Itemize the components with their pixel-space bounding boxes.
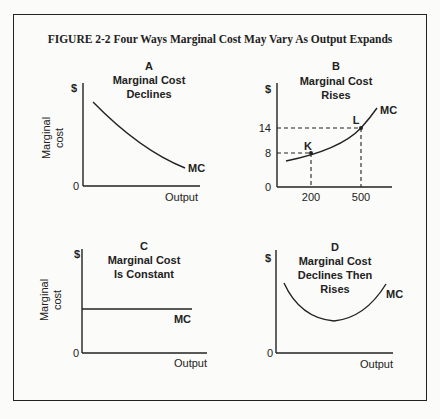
figure-canvas: A Marginal Cost Declines $ 0 Output MC M… bbox=[0, 0, 440, 419]
panel-d-mc-label: MC bbox=[386, 288, 403, 300]
panel-a-origin: 0 bbox=[73, 180, 79, 192]
panel-a-x-label: Output bbox=[165, 191, 198, 203]
panel-c-origin: 0 bbox=[73, 347, 79, 359]
panel-d-letter: D bbox=[331, 241, 339, 253]
panel-a-title-1: Marginal Cost bbox=[113, 74, 186, 86]
panel-c-letter: C bbox=[140, 240, 148, 252]
panel-c-mc-label: MC bbox=[174, 313, 191, 325]
panel-a-dollar: $ bbox=[71, 82, 77, 94]
panel-b-point-l: L bbox=[353, 114, 360, 126]
panel-a-title-2: Declines bbox=[126, 88, 171, 100]
panel-d-title-1: Marginal Cost bbox=[299, 255, 372, 267]
panel-d-origin: 0 bbox=[267, 347, 273, 359]
panel-c-x-label: Output bbox=[174, 357, 207, 369]
panel-c-y-label-2: cost bbox=[51, 290, 63, 310]
panel-b-dollar: $ bbox=[265, 83, 271, 95]
point-l-marker bbox=[359, 126, 363, 130]
panel-c-title-1: Marginal Cost bbox=[108, 254, 181, 266]
panel-c-y-label-1: Marginal bbox=[38, 279, 50, 321]
panel-b-tick-200: 200 bbox=[302, 191, 320, 203]
panel-b-mc-label: MC bbox=[380, 104, 397, 116]
panel-d-dollar: $ bbox=[265, 252, 271, 264]
panel-c-title-2: Is Constant bbox=[114, 268, 174, 280]
panel-b-guides bbox=[277, 128, 361, 187]
panel-d-title-2: Declines Then bbox=[298, 269, 373, 281]
panel-b-title-2: Rises bbox=[321, 89, 350, 101]
panel-a-y-label-2: cost bbox=[53, 128, 65, 148]
panel-a-mc-curve bbox=[93, 102, 185, 168]
panel-a-mc-label: MC bbox=[188, 162, 205, 174]
panel-c-dollar: $ bbox=[74, 248, 80, 260]
panel-b-tick-8: 8 bbox=[265, 147, 271, 159]
panel-b-tick-500: 500 bbox=[352, 191, 370, 203]
panel-b-point-k: K bbox=[304, 140, 312, 152]
panel-a-letter: A bbox=[145, 60, 153, 72]
panel-b-title-1: Marginal Cost bbox=[300, 75, 373, 87]
panel-a-y-label-1: Marginal bbox=[40, 117, 52, 159]
panel-b-letter: B bbox=[332, 60, 340, 72]
panel-d-x-label: Output bbox=[360, 358, 393, 370]
panel-d-title-3: Rises bbox=[320, 283, 349, 295]
panel-b-tick-14: 14 bbox=[259, 122, 271, 134]
panel-b-origin: 0 bbox=[265, 181, 271, 193]
